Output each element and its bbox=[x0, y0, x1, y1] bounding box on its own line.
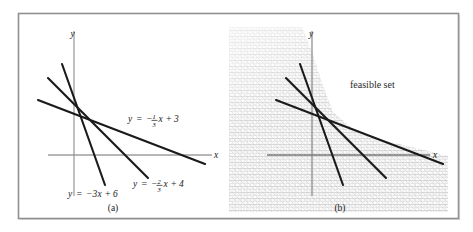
panel-a-label-line2-sign: − bbox=[151, 179, 157, 189]
panel-a-y-axis-label: y bbox=[70, 29, 76, 39]
panel-b-feasible-set-label: feasible set bbox=[350, 79, 395, 90]
panel-a-label-line2-lhs: y bbox=[132, 179, 138, 189]
panel-a-label-line2-intercept: 4 bbox=[179, 179, 184, 189]
panel-a-label-line3-eq: = bbox=[76, 189, 82, 199]
figure-container: x y y = − 1 3 x + 3 y = bbox=[0, 0, 473, 232]
panel-a-label-line2-eq: = bbox=[141, 179, 147, 189]
panel-a-label-line3-variable: x bbox=[97, 189, 103, 199]
panel-b-x-axis-label: x bbox=[432, 150, 438, 160]
panel-a-label-line3-plus: + bbox=[105, 189, 111, 199]
panel-a-label-line3-intercept: 6 bbox=[113, 189, 118, 199]
panel-a-label-line1-denominator: 3 bbox=[152, 121, 156, 128]
panel-a-label-line3-lhs: y bbox=[67, 189, 73, 199]
panel-a-label-line3-sign: − bbox=[86, 189, 92, 199]
panel-a-caption: (a) bbox=[108, 203, 119, 214]
panel-a-label-line1-variable: x bbox=[158, 114, 164, 124]
panel-b-caption: (b) bbox=[334, 203, 345, 214]
panel-a-label-line1-lhs: y bbox=[127, 114, 133, 124]
panel-a-label-line2-variable: x bbox=[163, 179, 169, 189]
figure-svg: x y y = − 1 3 x + 3 y = bbox=[0, 0, 473, 232]
panel-a-label-line1-sign: − bbox=[146, 114, 152, 124]
panel-a-label-line1-numerator: 1 bbox=[153, 113, 156, 120]
panel-a-label-line1-eq: = bbox=[136, 114, 142, 124]
panel-a-label-line1-intercept: 3 bbox=[173, 114, 179, 124]
panel-a-label-line2-denominator: 3 bbox=[157, 186, 161, 193]
panel-a-label-line1-plus: + bbox=[166, 114, 172, 124]
panel-b-y-axis-label: y bbox=[308, 29, 314, 39]
panel-a-label-line2-plus: + bbox=[171, 179, 177, 189]
panel-a-x-axis-label: x bbox=[213, 150, 219, 160]
